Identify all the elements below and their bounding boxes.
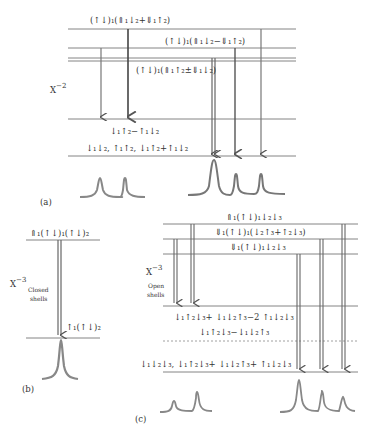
axis-label-b: X−3 (10, 276, 26, 289)
panel-tag-b: (b) (22, 384, 34, 394)
panel-tag-c: (c) (135, 414, 146, 424)
spectrum-c-left (160, 392, 212, 412)
spectrum-a-right (188, 160, 285, 195)
panel-a: (↑↓)₁(⇑₁↓₂+⇓₁↑₂) (↑↓)₁(⇑₁↓₂−⇓₁↑₂) (↑↓)₁(… (40, 15, 296, 207)
axis-sub-b2: shells (30, 295, 47, 302)
label-c-low: ↓₁↓₂↓₃, ↓₁↑₂↓₃+ ↓₁↓₂↑₃+ ↑₁↓₂↓₃ (140, 359, 291, 369)
label-b-low: ↑₁(↑↓)₂ (66, 322, 101, 332)
label-b-top: ⇑₁(↑↓)₁(↑↓)₂ (30, 228, 89, 238)
axis-label-c: X−3 (146, 264, 162, 277)
axis-sub-c2: shells (147, 291, 164, 298)
label-c-mid2: ↓₁↑₂↓₃−↓₁↓₂↑₃ (199, 327, 269, 337)
label-c-top3: ⇓₁(↑↓)₁↓₂↓₃ (230, 242, 286, 252)
label-a-top1: (↑↓)₁(⇑₁↓₂+⇓₁↑₂) (90, 15, 170, 25)
label-a-low2: ↓₁↓₂, ↑₁↑₂, ↓₁↑₂+↑₁↓₂ (86, 143, 188, 153)
label-a-top2: (↑↓)₁(⇑₁↓₂−⇓₁↑₂) (165, 36, 245, 46)
axis-label-a: X−2 (50, 82, 66, 95)
label-c-top2: ⇓₁(↑↓)₁(↓₂↑₃+↑₂↓₃) (215, 227, 306, 237)
spectrum-a-left (80, 178, 145, 197)
panel-c: ⇑₁(↑↓)₁↓₂↓₃ ⇓₁(↑↓)₁(↓₂↑₃+↑₂↓₃) ⇓₁(↑↓)₁↓₂… (135, 212, 358, 424)
energy-level-diagram: (↑↓)₁(⇑₁↓₂+⇓₁↑₂) (↑↓)₁(⇑₁↓₂−⇓₁↑₂) (↑↓)₁(… (0, 0, 369, 437)
panel-b: ⇑₁(↑↓)₁(↑↓)₂ ↑₁(↑↓)₂ X−3 Closed shells (… (10, 228, 101, 394)
label-c-top1: ⇑₁(↑↓)₁↓₂↓₃ (226, 212, 282, 222)
label-a-low1: ↓₁↑₂−↑₁↓₂ (110, 126, 159, 136)
spectrum-c-right (280, 380, 355, 412)
label-a-top3: (↑↓)₁(⇑₁↑₂±⇓₁↓₂) (136, 65, 216, 75)
panel-tag-a: (a) (40, 197, 52, 207)
axis-sub-b1: Closed (28, 286, 49, 293)
label-c-mid1: ↓₁↑₂↓₃+ ↓₁↓₂↑₃−2 ↑₁↓₂↓₃ (174, 312, 294, 322)
spectrum-b (42, 340, 78, 379)
axis-sub-c1: Open (148, 282, 164, 290)
